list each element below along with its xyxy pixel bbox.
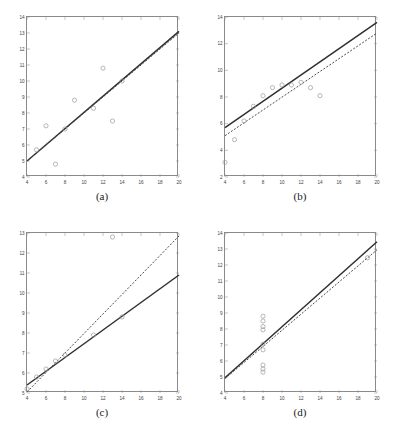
- data-point: [110, 119, 114, 123]
- svg-text:10: 10: [279, 180, 285, 185]
- svg-text:6: 6: [243, 396, 246, 401]
- svg-text:8: 8: [220, 327, 223, 332]
- data-point: [232, 138, 236, 142]
- svg-text:12: 12: [100, 396, 106, 401]
- svg-text:16: 16: [138, 180, 144, 185]
- axis-ticks-b: 4681012141618202468101214: [217, 15, 380, 185]
- svg-text:11: 11: [20, 271, 25, 276]
- data-points-d: [261, 256, 370, 375]
- svg-text:20: 20: [374, 396, 380, 401]
- svg-text:10: 10: [279, 396, 285, 401]
- data-point: [289, 83, 293, 87]
- svg-text:13: 13: [19, 31, 25, 36]
- svg-text:10: 10: [81, 396, 87, 401]
- svg-text:10: 10: [19, 79, 25, 84]
- plot-area-a: 4681012141618204567891011121314: [26, 16, 178, 176]
- svg-text:7: 7: [220, 343, 223, 348]
- svg-text:12: 12: [217, 263, 223, 268]
- svg-text:6: 6: [22, 143, 25, 148]
- svg-text:18: 18: [355, 180, 361, 185]
- svg-text:4: 4: [224, 180, 227, 185]
- svg-text:14: 14: [217, 231, 223, 236]
- svg-text:4: 4: [224, 396, 227, 401]
- svg-text:14: 14: [317, 180, 323, 185]
- plot-area-c: 4681012141618205678910111213: [26, 232, 178, 392]
- data-point: [223, 160, 227, 164]
- solid-fit-line-d: [225, 242, 377, 378]
- svg-text:9: 9: [220, 311, 223, 316]
- svg-text:10: 10: [217, 68, 223, 73]
- data-point: [261, 363, 265, 367]
- svg-text:16: 16: [336, 180, 342, 185]
- dashed-fit-line-c: [27, 236, 179, 392]
- svg-text:12: 12: [298, 180, 304, 185]
- svg-text:8: 8: [22, 331, 25, 336]
- svg-text:13: 13: [19, 231, 25, 236]
- svg-text:6: 6: [220, 121, 223, 126]
- svg-text:10: 10: [19, 291, 25, 296]
- svg-text:14: 14: [217, 15, 223, 20]
- svg-text:12: 12: [19, 47, 25, 52]
- plot-area-d: 4681012141618204567891011121314: [224, 232, 376, 392]
- svg-text:11: 11: [218, 279, 223, 284]
- svg-text:12: 12: [19, 251, 25, 256]
- data-point: [261, 319, 265, 323]
- panel-caption-d: (d): [224, 406, 376, 418]
- plot-area-b: 4681012141618202468101214: [224, 16, 376, 176]
- svg-text:12: 12: [217, 41, 223, 46]
- data-point: [261, 328, 265, 332]
- svg-text:6: 6: [22, 371, 25, 376]
- data-point: [110, 235, 114, 239]
- svg-text:8: 8: [262, 396, 265, 401]
- svg-text:4: 4: [22, 175, 25, 180]
- svg-text:7: 7: [22, 127, 25, 132]
- panel-d: 4681012141618204567891011121314(d): [224, 232, 376, 422]
- svg-text:10: 10: [81, 180, 87, 185]
- svg-text:14: 14: [119, 180, 125, 185]
- svg-text:4: 4: [220, 391, 223, 396]
- svg-text:6: 6: [45, 180, 48, 185]
- svg-text:16: 16: [138, 396, 144, 401]
- panel-caption-c: (c): [26, 406, 178, 418]
- svg-text:16: 16: [336, 396, 342, 401]
- four-panel-scatter-figure: 4681012141618204567891011121314(a)468101…: [0, 0, 403, 442]
- data-point: [365, 256, 369, 260]
- data-point: [280, 83, 284, 87]
- svg-text:20: 20: [176, 180, 182, 185]
- data-point: [261, 94, 265, 98]
- svg-text:10: 10: [217, 295, 223, 300]
- svg-text:12: 12: [298, 396, 304, 401]
- data-point: [261, 314, 265, 318]
- data-point: [91, 106, 95, 110]
- data-point: [101, 66, 105, 70]
- svg-text:20: 20: [374, 180, 380, 185]
- axis-ticks-d: 4681012141618204567891011121314: [217, 231, 380, 401]
- svg-text:9: 9: [22, 95, 25, 100]
- svg-text:8: 8: [64, 180, 67, 185]
- svg-text:11: 11: [20, 63, 25, 68]
- svg-text:14: 14: [119, 396, 125, 401]
- solid-fit-line-b: [225, 22, 377, 127]
- svg-text:13: 13: [217, 247, 223, 252]
- svg-text:6: 6: [220, 359, 223, 364]
- data-points-b: [223, 80, 322, 164]
- data-point: [308, 86, 312, 90]
- panel-c: 4681012141618205678910111213(c): [26, 232, 178, 422]
- data-point: [318, 94, 322, 98]
- svg-text:18: 18: [355, 396, 361, 401]
- svg-text:4: 4: [26, 180, 29, 185]
- data-point: [299, 80, 303, 84]
- panel-caption-a: (a): [26, 190, 178, 202]
- svg-text:6: 6: [243, 180, 246, 185]
- svg-text:4: 4: [220, 148, 223, 153]
- svg-text:5: 5: [220, 375, 223, 380]
- data-point: [261, 370, 265, 374]
- svg-text:2: 2: [220, 175, 223, 180]
- svg-text:8: 8: [64, 396, 67, 401]
- svg-text:18: 18: [157, 180, 163, 185]
- panel-a: 4681012141618204567891011121314(a): [26, 16, 178, 206]
- panel-b: 4681012141618202468101214(b): [224, 16, 376, 206]
- svg-text:5: 5: [22, 391, 25, 396]
- data-point: [270, 86, 274, 90]
- svg-text:8: 8: [262, 180, 265, 185]
